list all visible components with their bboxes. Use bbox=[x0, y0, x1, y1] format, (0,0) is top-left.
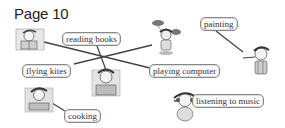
child-reading-picture bbox=[15, 27, 45, 51]
child-playing-computer-picture bbox=[90, 66, 122, 98]
child-painting-picture bbox=[241, 43, 275, 77]
match-line-kites bbox=[74, 45, 152, 64]
label-listening-to-music: listening to music bbox=[192, 94, 264, 108]
label-cooking: cooking bbox=[64, 109, 101, 123]
label-painting: painting bbox=[200, 17, 238, 31]
label-playing-computer: playing computer bbox=[149, 64, 220, 78]
match-line-painting bbox=[216, 31, 243, 52]
label-reading-books: reading books bbox=[62, 32, 121, 46]
label-flying-kites: flying kites bbox=[22, 64, 71, 78]
child-cooking-picture bbox=[24, 85, 54, 113]
child-flying-kite-picture bbox=[150, 18, 182, 56]
